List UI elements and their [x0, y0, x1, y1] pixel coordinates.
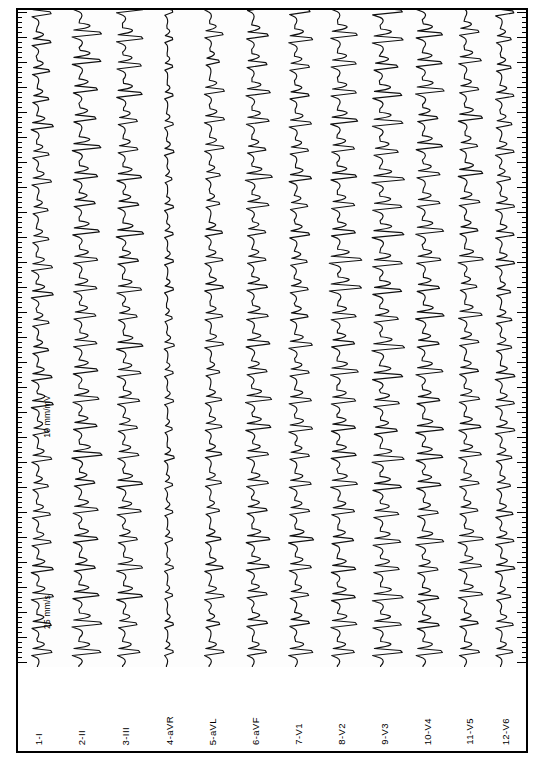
- ecg-trace-5-avl: [204, 10, 224, 669]
- lead-label-avf: 6-aVF: [250, 717, 261, 745]
- lead-label-band: 1-I2-II3-III4-aVR5-aVL6-aVF7-V18-V29-V31…: [18, 667, 526, 751]
- ecg-trace-10-v4: [416, 10, 445, 669]
- ecg-waveform-traces: [18, 10, 526, 669]
- lead-label-v2: 8-V2: [336, 723, 347, 745]
- lead-label-ii: 2-II: [76, 730, 87, 745]
- lead-label-v1: 7-V1: [293, 723, 304, 745]
- ecg-trace-9-v3: [372, 10, 405, 669]
- ecg-chart-frame: 25 mm/s 10 mm/mV 1-I2-II3-III4-aVR5-aVL6…: [16, 8, 528, 753]
- lead-label-v3: 9-V3: [379, 723, 390, 745]
- ecg-strip-area: 25 mm/s 10 mm/mV: [18, 10, 526, 669]
- ecg-trace-12-v6: [495, 10, 515, 669]
- lead-label-avr: 4-aVR: [164, 716, 175, 745]
- lead-label-v5: 11-V5: [464, 718, 475, 745]
- ecg-page: 25 mm/s 10 mm/mV 1-I2-II3-III4-aVR5-aVL6…: [0, 0, 544, 770]
- paper-speed-annotation: 25 mm/s: [42, 595, 52, 629]
- ecg-trace-1-i: [31, 10, 53, 669]
- ecg-trace-6-avf: [245, 10, 272, 669]
- lead-label-v6: 12-V6: [500, 718, 511, 745]
- lead-label-iii: 3-III: [120, 727, 131, 745]
- lead-label-avl: 5-aVL: [207, 718, 218, 745]
- ecg-trace-4-avr: [164, 10, 174, 669]
- lead-label-i: 1-I: [33, 733, 44, 745]
- ecg-trace-8-v2: [329, 10, 361, 669]
- ecg-trace-2-ii: [72, 10, 102, 669]
- lead-label-v4: 10-V4: [422, 718, 433, 745]
- ecg-trace-7-v1: [288, 10, 313, 669]
- ecg-trace-11-v5: [458, 10, 483, 669]
- ecg-trace-3-iii: [116, 10, 143, 669]
- gain-annotation: 10 mm/mV: [42, 395, 52, 438]
